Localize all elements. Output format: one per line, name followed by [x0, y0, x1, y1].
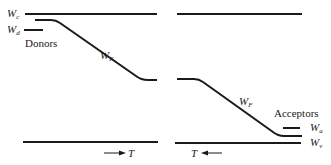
arrowhead-right-icon — [119, 151, 126, 156]
acceptors-label: Acceptors — [274, 107, 319, 119]
fermi-level-curve-left — [35, 20, 157, 80]
right-panel-acceptors: WF Acceptors Wa Wv T — [175, 14, 323, 159]
donors-label: Donors — [25, 37, 57, 49]
left-panel-donors: Wc Wd Donors WF T — [7, 7, 158, 159]
temperature-label-left: T — [128, 147, 135, 159]
fermi-level-diagram: Wc Wd Donors WF T WF Acceptors Wa Wv T — [0, 0, 331, 165]
donor-level-label: Wd — [7, 23, 20, 37]
fermi-level-label-right: WF — [239, 95, 253, 109]
valence-band-label: Wv — [310, 136, 323, 150]
conduction-band-label: Wc — [7, 7, 20, 21]
temperature-arrow-left: T — [191, 147, 222, 159]
temperature-arrow-right: T — [104, 147, 135, 159]
fermi-level-label-left: WF — [100, 49, 114, 63]
acceptor-level-label: Wa — [310, 121, 323, 135]
temperature-label-right: T — [191, 147, 198, 159]
